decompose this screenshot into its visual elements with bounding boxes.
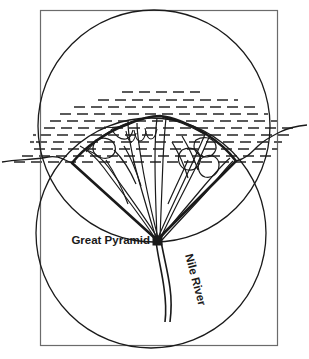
nile-river-label: Nile River — [183, 252, 208, 307]
great-pyramid-marker[interactable] — [153, 236, 162, 245]
upper-circle — [38, 10, 270, 242]
nile-delta-diagram: Great Pyramid Nile River — [0, 0, 309, 359]
diagram-canvas: Great Pyramid Nile River — [0, 0, 309, 359]
sea-hatch-fragments — [30, 135, 36, 142]
great-pyramid-label: Great Pyramid — [71, 234, 150, 246]
nile-river-channel — [156, 241, 171, 322]
outer-frame — [41, 11, 278, 346]
